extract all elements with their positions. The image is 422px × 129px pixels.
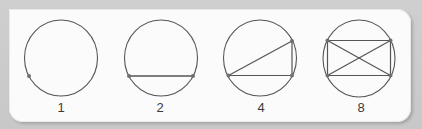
circle <box>125 20 198 96</box>
point <box>227 74 231 78</box>
figure-label: 4 <box>257 100 264 115</box>
chord <box>229 41 293 76</box>
point <box>389 39 393 43</box>
figure-label: 2 <box>156 100 163 115</box>
figure-label: 1 <box>57 100 64 115</box>
point <box>326 74 330 78</box>
figure-1: 1 <box>25 20 98 115</box>
point <box>326 39 330 43</box>
figure-4: 4 <box>224 20 297 115</box>
figure-8: 8 <box>323 20 395 115</box>
point <box>127 74 131 78</box>
figure-2: 2 <box>125 20 198 115</box>
point <box>191 74 195 78</box>
point <box>290 74 294 78</box>
circle <box>25 20 98 96</box>
circle-regions-diagram: 1 2 4 8 <box>0 0 422 129</box>
figure-label: 8 <box>357 100 364 115</box>
point <box>290 39 294 43</box>
point <box>27 74 31 78</box>
point <box>389 74 393 78</box>
